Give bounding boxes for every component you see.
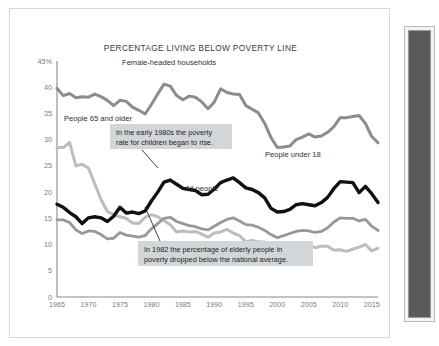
x-tick-label: 2010 [332,300,348,309]
label-all-people: All people [185,184,218,193]
label-65-older: People 65 and older [64,114,132,123]
y-tick-label: 15 [44,214,52,223]
dark-side-panel-fill [408,30,431,318]
label-female-headed: Female-headed households [122,58,216,67]
x-tick-label: 1965 [49,300,65,309]
callout-children-leader [142,150,158,168]
label-under-18: People under 18 [265,150,321,159]
callout-elderly-line1: In 1982 the percentage of elderly people… [144,245,282,254]
y-tick-label: 10 [44,240,52,249]
y-tick-label: 25 [44,161,52,170]
callout-annotations: In the early 1980s the povertyrate for c… [110,124,313,266]
x-tick-label: 1990 [206,300,222,309]
y-tick-label: 35 [44,109,52,118]
callout-children-line1: In the early 1980s the poverty [116,128,212,137]
y-axis-tick-labels: 45%4035302520151050 [38,57,53,302]
callout-children-line2: rate for children began to rise. [116,138,213,147]
x-tick-label: 1980 [143,300,159,309]
series-lines [57,84,378,251]
figure-frame: PERCENTAGE LIVING BELOW POVERTY LINE 45%… [9,8,390,338]
callout-elderly-line2: poverty dropped below the national avera… [144,255,288,264]
y-tick-label: 30 [44,135,52,144]
x-tick-label: 1970 [80,300,96,309]
y-tick-label: 20 [44,188,52,197]
poverty-line-chart: 45%4035302520151050 19651970197519801985… [10,9,391,339]
y-tick-label: 45% [38,57,53,66]
y-tick-label: 5 [48,266,52,275]
x-tick-label: 1975 [112,300,128,309]
y-tick-label: 40 [44,83,52,92]
x-tick-label: 1995 [238,300,254,309]
x-tick-label: 2000 [269,300,285,309]
x-tick-label: 1985 [175,300,191,309]
x-tick-label: 2005 [301,300,317,309]
x-axis-tick-labels: 1965197019751980198519901995200020052010… [49,300,380,309]
dark-side-panel [404,26,435,322]
x-tick-label: 2015 [364,300,380,309]
